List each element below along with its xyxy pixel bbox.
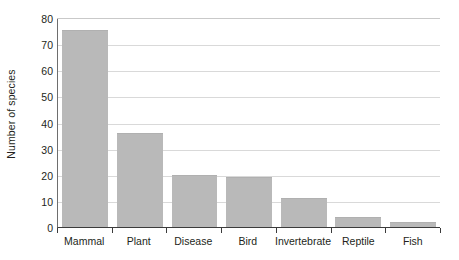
x-axis-tick [166,228,167,233]
x-axis-tick-labels: MammalPlantDiseaseBirdInvertebrateReptil… [57,234,440,254]
y-axis-tick-label: 10 [24,197,53,208]
plot-area [57,19,440,228]
x-axis-tick [112,228,113,233]
x-axis-tick [57,228,58,233]
y-axis-tick-label: 30 [24,144,53,155]
y-axis-tick-label: 60 [24,66,53,77]
bar[interactable] [172,175,218,227]
x-axis-tick-label: Invertebrate [275,234,331,254]
x-axis-tick-label: Reptile [331,234,386,254]
x-axis-tick [276,228,277,233]
bar[interactable] [390,222,436,227]
y-axis-tick-label: 40 [24,118,53,129]
bar[interactable] [281,198,327,227]
x-axis-tick [221,228,222,233]
y-axis-tick-label: 20 [24,171,53,182]
bar-slot [222,19,277,227]
bar-slot [331,19,386,227]
bar-slot [167,19,222,227]
x-axis-tick-label: Mammal [57,234,112,254]
bar-slot [276,19,331,227]
x-axis-tick-label: Fish [386,234,441,254]
x-axis-tick [440,228,441,233]
x-axis-tick [331,228,332,233]
y-axis-tick-labels: 80706050403020100 [24,0,53,260]
bar-slot [113,19,168,227]
y-axis-title: Number of species [0,0,22,228]
bar-chart: Number of species 80706050403020100 Mamm… [0,0,459,260]
x-axis-tick-label: Bird [221,234,276,254]
x-axis-ticks [57,228,440,233]
y-axis-tick-label: 70 [24,40,53,51]
y-axis-tick-label: 50 [24,92,53,103]
bar[interactable] [62,30,108,227]
bar[interactable] [117,133,163,227]
bar-slot [385,19,440,227]
x-axis-tick [385,228,386,233]
x-axis-tick-label: Plant [112,234,167,254]
x-axis-tick-label: Disease [166,234,221,254]
y-axis-title-label: Number of species [5,69,17,158]
bar[interactable] [335,217,381,227]
bar-slot [58,19,113,227]
bars-layer [58,19,440,227]
bar[interactable] [226,177,272,227]
y-axis-tick-label: 0 [24,223,53,234]
y-axis-tick-label: 80 [24,14,53,25]
